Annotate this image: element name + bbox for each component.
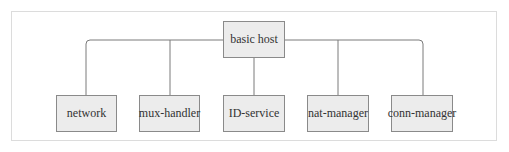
node-label: basic host — [230, 32, 278, 47]
node-conn-manager: conn-manager — [391, 95, 453, 132]
node-label: mux-handler — [139, 106, 200, 121]
node-label: conn-manager — [388, 106, 457, 121]
node-network: network — [56, 95, 117, 132]
node-basic-host: basic host — [223, 21, 285, 58]
node-id-service: ID-service — [223, 95, 285, 132]
node-label: nat-manager — [308, 106, 368, 121]
node-nat-manager: nat-manager — [307, 95, 369, 132]
node-mux-handler: mux-handler — [139, 95, 200, 132]
node-label: network — [67, 106, 106, 121]
node-label: ID-service — [229, 106, 280, 121]
